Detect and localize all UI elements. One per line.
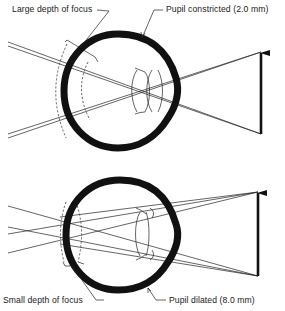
bottom-pupil-leader-line <box>148 288 166 300</box>
top-panel-constricted <box>8 10 261 148</box>
bottom-light-rays <box>8 192 258 276</box>
depth-of-focus-diagram <box>0 0 285 311</box>
pupil-constricted-label: Pupil constricted (2.0 mm) <box>166 4 268 14</box>
top-eyeball-icon <box>64 34 178 148</box>
top-pupil-leader-line <box>142 10 163 38</box>
pupil-dilated-label: Pupil dilated (8.0 mm) <box>169 295 255 305</box>
large-depth-of-focus-label: Large depth of focus <box>12 4 92 14</box>
bottom-lens-icon <box>136 208 154 260</box>
small-depth-of-focus-label: Small depth of focus <box>3 295 83 305</box>
top-light-rays <box>8 42 261 138</box>
bottom-panel-dilated <box>8 180 258 300</box>
